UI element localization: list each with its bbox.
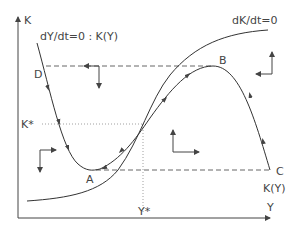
- point-a-label: A: [86, 173, 94, 186]
- y-axis-label: K: [24, 14, 32, 27]
- trajectory-arrows: [45, 75, 265, 168]
- vector-field-lower-left: [40, 150, 56, 172]
- y-star-label: Y*: [137, 205, 151, 218]
- vector-field-upper-left: [84, 66, 99, 88]
- dy-dt-zero-label: dY/dt=0 : K(Y): [40, 30, 118, 43]
- dy-dt-zero-curve: [37, 43, 270, 170]
- point-c-label: C: [276, 165, 284, 178]
- k-of-y-label: K(Y): [263, 182, 286, 195]
- vector-field-lower-right: [173, 130, 199, 152]
- x-axis-label: Y: [266, 201, 274, 214]
- vector-field-upper-right: [256, 52, 272, 74]
- k-star-label: K*: [21, 118, 34, 131]
- point-b-label: B: [219, 54, 227, 67]
- point-d-label: D: [34, 68, 42, 81]
- dk-dt-zero-label: dK/dt=0: [232, 14, 277, 27]
- dk-dt-zero-curve: [27, 30, 268, 201]
- phase-diagram: K Y K* Y* dK/dt=0 dY/dt=0 : K(Y) K(Y) D …: [0, 0, 301, 233]
